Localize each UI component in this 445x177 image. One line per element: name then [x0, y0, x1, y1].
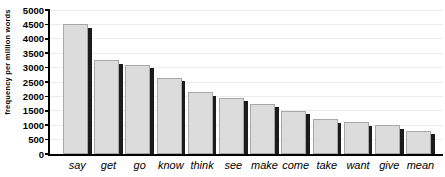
y-axis-line [48, 9, 50, 156]
bar [250, 104, 275, 154]
bar [157, 78, 182, 154]
x-axis-label: mean [397, 159, 443, 172]
bar [344, 122, 369, 154]
gridline [48, 24, 443, 25]
x-axis-line [48, 154, 444, 157]
bar [188, 92, 213, 154]
bar-shadow [306, 114, 310, 154]
bar [219, 98, 244, 154]
bar [125, 65, 150, 154]
gridline [48, 53, 443, 54]
bar-shadow [150, 68, 154, 154]
y-tick-label: 1000 [11, 120, 44, 131]
gridline [48, 38, 443, 39]
y-tick-label: 1500 [11, 105, 44, 116]
y-tick-label: 0 [11, 149, 44, 160]
bar-shadow [400, 129, 404, 154]
y-tick-label: 3000 [11, 62, 44, 73]
bar-shadow [431, 134, 435, 154]
gridline [48, 10, 443, 11]
bar-shadow [275, 107, 279, 154]
bar [313, 119, 338, 154]
bar-shadow [244, 101, 248, 154]
bar-shadow [119, 64, 123, 154]
bar [63, 24, 88, 154]
verb-frequency-bar-chart: frequency per million words 050010001500… [0, 0, 445, 177]
y-tick-label: 4500 [11, 19, 44, 30]
bar [406, 131, 431, 154]
y-tick-label: 2500 [11, 77, 44, 88]
y-tick-label: 2000 [11, 91, 44, 102]
bar [375, 125, 400, 154]
bar-shadow [88, 28, 92, 154]
y-tick-label: 5000 [11, 5, 44, 16]
bar [94, 60, 119, 154]
bar-shadow [369, 126, 373, 154]
bar-shadow [338, 123, 342, 154]
bar-shadow [213, 96, 217, 154]
bar [281, 111, 306, 154]
y-tick-label: 4000 [11, 33, 44, 44]
y-tick-label: 500 [11, 134, 44, 145]
bar-shadow [182, 81, 186, 154]
y-tick-label: 3500 [11, 48, 44, 59]
